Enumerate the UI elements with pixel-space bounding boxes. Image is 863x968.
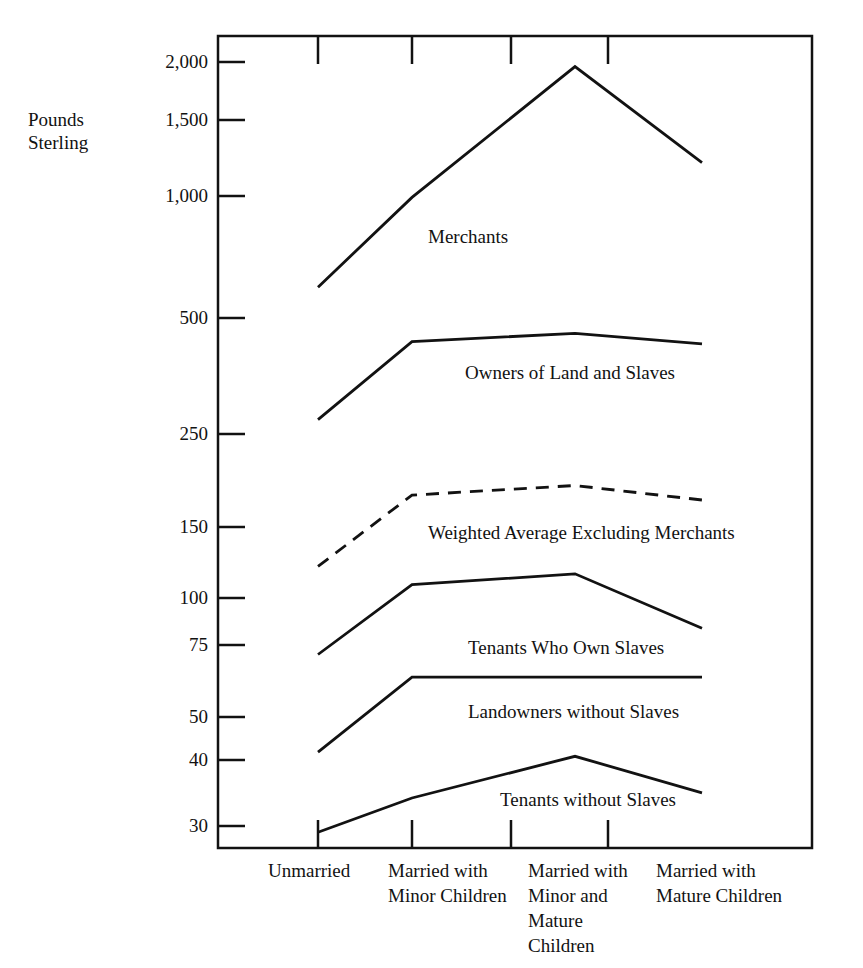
x-category-minor-line-1: Married with — [388, 858, 507, 883]
series-label-landowners-without-slaves: Landowners without Slaves — [468, 701, 679, 723]
series-label-tenants-who-own-slaves: Tenants Who Own Slaves — [468, 637, 664, 659]
x-category-minor-mature-line-3: Mature — [528, 908, 628, 933]
x-axis-ticks-top — [318, 36, 608, 64]
x-category-minor-line-2: Minor Children — [388, 883, 507, 908]
x-category-minor-mature-line-1: Married with — [528, 858, 628, 883]
plot-frame — [218, 36, 812, 848]
series-label-tenants-without-slaves: Tenants without Slaves — [500, 789, 676, 811]
x-axis-ticks-bottom — [318, 820, 608, 848]
plot-area — [0, 0, 863, 968]
chart-figure: Pounds Sterling 2,000 1,500 1,000 500 25… — [0, 0, 863, 968]
series-label-owners-of-land-and-slaves: Owners of Land and Slaves — [465, 362, 675, 384]
x-category-mature-line-2: Mature Children — [656, 883, 782, 908]
x-category-mature-line-1: Married with — [656, 858, 782, 883]
series-label-merchants: Merchants — [428, 226, 508, 248]
x-category-unmarried-line-1: Unmarried — [268, 858, 350, 883]
series-label-weighted-average-excluding-merchants: Weighted Average Excluding Merchants — [428, 522, 735, 544]
x-category-label-unmarried: Unmarried — [268, 858, 350, 883]
x-category-minor-mature-line-2: Minor and — [528, 883, 628, 908]
series-line-merchants — [318, 67, 702, 288]
y-axis-ticks — [218, 62, 245, 826]
x-category-minor-mature-line-4: Children — [528, 933, 628, 958]
x-category-label-married-minor-and-mature-children: Married with Minor and Mature Children — [528, 858, 628, 958]
x-category-label-married-mature-children: Married with Mature Children — [656, 858, 782, 908]
x-category-label-married-minor-children: Married with Minor Children — [388, 858, 507, 908]
